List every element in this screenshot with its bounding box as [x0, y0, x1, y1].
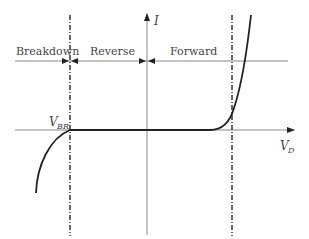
x-axis-label-sub: D — [287, 146, 295, 155]
iv-curve — [36, 15, 251, 193]
region-label-forward: Forward — [170, 45, 217, 58]
y-axis-label: I — [153, 14, 159, 28]
x-axis-label: V D — [280, 139, 295, 155]
vbr-label-sub: BR — [56, 122, 69, 131]
region-label-reverse: Reverse — [90, 45, 135, 58]
breakdown-voltage-label: V BR — [49, 115, 69, 131]
diode-iv-diagram: Breakdown Reverse Forward I V D V BR — [0, 0, 309, 239]
region-label-breakdown: Breakdown — [16, 45, 79, 58]
